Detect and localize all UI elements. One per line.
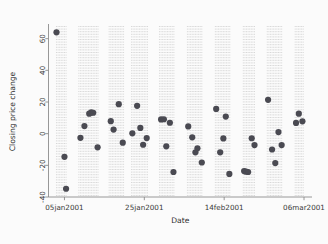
y-tick-label: -40	[38, 191, 47, 203]
y-tick-label: 20	[38, 97, 47, 107]
data-point	[90, 110, 96, 116]
data-points	[53, 29, 305, 192]
data-point	[249, 135, 255, 141]
data-point	[61, 154, 67, 160]
data-point	[217, 149, 223, 155]
data-point	[185, 123, 191, 129]
y-axis-tick-labels: -40-200204060	[38, 34, 47, 203]
data-point	[296, 111, 302, 117]
data-point	[194, 145, 200, 151]
data-point	[265, 97, 271, 103]
x-axis-title: Date	[171, 216, 189, 225]
data-point	[272, 160, 278, 166]
y-tick-label: 60	[38, 34, 47, 44]
data-point	[167, 120, 173, 126]
data-point	[279, 142, 285, 148]
axis-lines	[49, 24, 313, 197]
x-tick-label: 25jan2001	[125, 203, 163, 212]
data-point	[95, 144, 101, 150]
data-point	[134, 103, 140, 109]
data-point	[199, 159, 205, 165]
data-point	[53, 29, 59, 35]
x-tick-label: 05jan2001	[45, 203, 83, 212]
data-point	[170, 169, 176, 175]
y-axis-ticks	[45, 39, 48, 197]
data-point	[116, 101, 122, 107]
x-axis-ticks	[64, 197, 304, 200]
data-point	[63, 186, 69, 192]
data-point	[108, 118, 114, 124]
data-point	[220, 135, 226, 141]
data-point	[110, 126, 116, 132]
y-tick-label: 40	[38, 65, 47, 75]
data-point	[299, 118, 305, 124]
x-tick-label: 06mar2001	[283, 203, 325, 212]
data-point	[161, 116, 167, 122]
data-point	[189, 134, 195, 140]
y-tick-label: 0	[38, 131, 47, 136]
data-point	[137, 125, 143, 131]
data-point	[120, 140, 126, 146]
data-point	[163, 143, 169, 149]
data-point	[269, 146, 275, 152]
data-point	[226, 171, 232, 177]
data-point	[140, 142, 146, 148]
y-axis-title: Closing price change	[8, 71, 17, 151]
data-point	[144, 135, 150, 141]
data-point	[129, 130, 135, 136]
data-point	[251, 142, 257, 148]
data-point	[223, 113, 229, 119]
x-tick-label: 14feb2001	[205, 203, 244, 212]
chart-figure: -40-200204060 05jan200125jan200114feb200…	[0, 0, 328, 244]
data-point	[275, 129, 281, 135]
data-point	[245, 169, 251, 175]
data-point	[81, 123, 87, 129]
data-point	[77, 135, 83, 141]
y-tick-label: -20	[38, 159, 47, 171]
scatter-plot: -40-200204060 05jan200125jan200114feb200…	[0, 0, 328, 244]
x-axis-tick-labels: 05jan200125jan200114feb200106mar2001	[45, 203, 325, 212]
data-point	[213, 106, 219, 112]
data-point	[293, 120, 299, 126]
